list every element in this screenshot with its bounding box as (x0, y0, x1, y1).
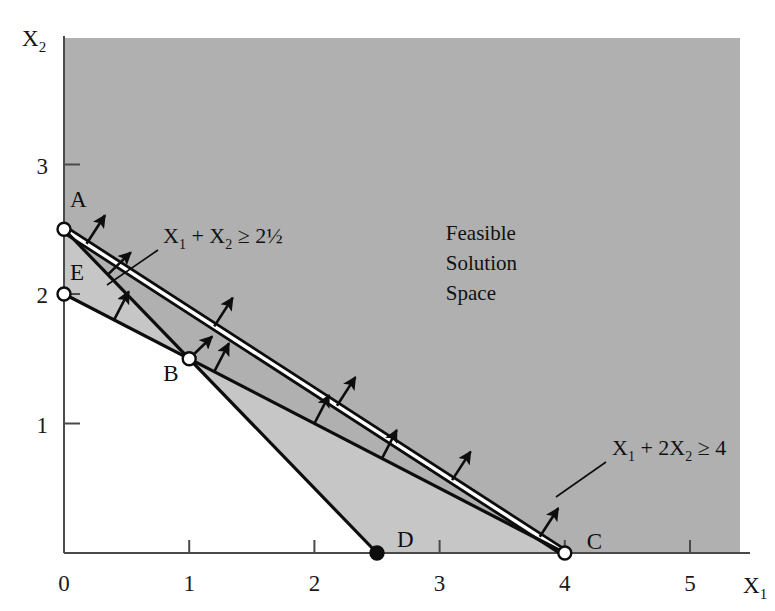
vertex-label-c: C (587, 529, 602, 554)
x-axis-tick-label: 2 (309, 571, 321, 596)
x-axis-title: X1 (743, 573, 767, 602)
feasible-region-label-line: Feasible (446, 221, 516, 245)
y-axis-tick-label: 1 (37, 413, 49, 438)
vertex-marker-e (58, 288, 71, 301)
vertex-label-d: D (397, 527, 414, 552)
feasible-region-label-line: Solution (446, 251, 518, 275)
feasible-region-plot: 012345123 X2X1AEBDCX1 + X2 ≥ 2½X1 + 2X2 … (0, 0, 775, 611)
feasible-region-label-line: Space (446, 281, 496, 305)
vertex-label-e: E (70, 260, 84, 285)
x-axis-tick-label: 4 (559, 571, 571, 596)
vertex-marker-c (558, 547, 571, 560)
x-axis-tick-label: 3 (434, 571, 446, 596)
vertex-marker-d (371, 547, 384, 560)
y-axis-tick-label: 2 (37, 283, 49, 308)
y-axis-title: X2 (22, 26, 46, 55)
vertex-marker-b (183, 352, 196, 365)
vertex-label-a: A (70, 187, 87, 212)
y-axis-tick-label: 3 (37, 154, 49, 179)
linear-programming-figure: 012345123 X2X1AEBDCX1 + X2 ≥ 2½X1 + 2X2 … (0, 0, 775, 611)
vertex-label-b: B (163, 361, 178, 386)
vertex-marker-a (58, 223, 71, 236)
x-axis-tick-label: 0 (58, 571, 70, 596)
x-axis-tick-label: 5 (684, 571, 696, 596)
x-axis-tick-label: 1 (183, 571, 195, 596)
